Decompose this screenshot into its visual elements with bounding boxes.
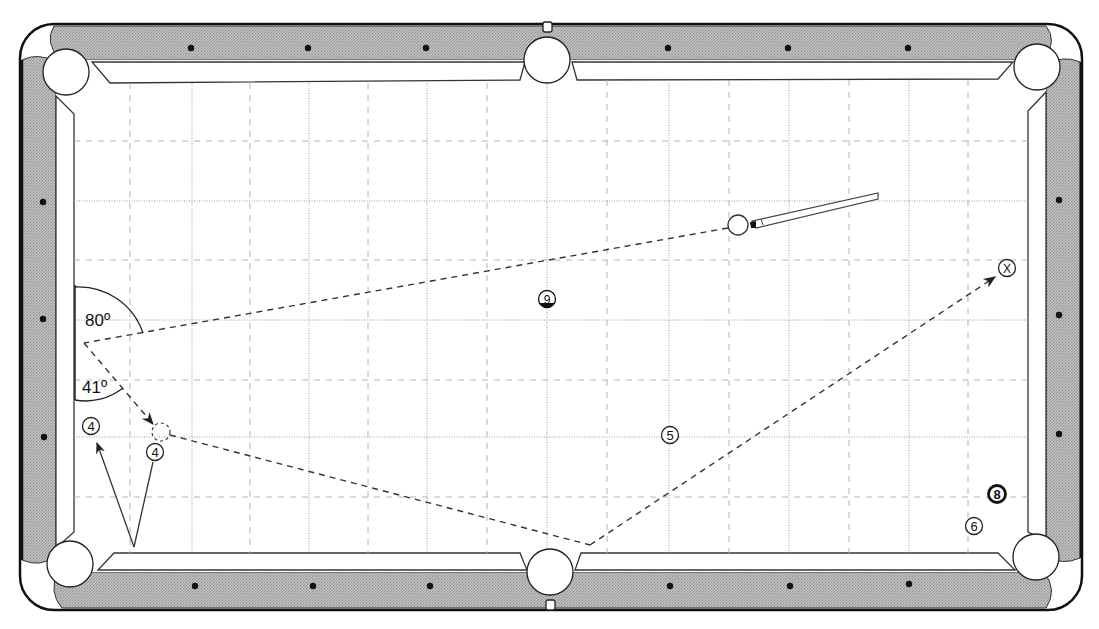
cushion-right	[1028, 92, 1046, 540]
diamond-marker	[1056, 197, 1062, 203]
diamond-marker	[40, 199, 46, 205]
diamond-marker	[427, 583, 433, 589]
diamond-marker	[192, 583, 198, 589]
ball-4a-label: 4	[87, 419, 94, 434]
left-rail	[22, 56, 56, 563]
ball-4b-label: 4	[151, 445, 158, 460]
diamond-marker	[906, 581, 912, 587]
ball-4b: 4	[147, 444, 164, 461]
diamond-marker	[785, 45, 791, 51]
ball-5: 5	[662, 427, 679, 444]
diamond-marker	[310, 583, 316, 589]
diamond-marker	[305, 45, 311, 51]
bottom-middle-pocket-tab	[546, 600, 555, 610]
angle-label-41: 41º	[82, 378, 107, 397]
target-x-marker: X	[999, 260, 1016, 277]
right-rail	[1046, 59, 1080, 562]
pocket-top-left	[43, 49, 89, 95]
diamond-marker	[1056, 431, 1062, 437]
ball-8: 8	[989, 486, 1006, 503]
cushion-left	[56, 96, 74, 548]
pocket-top-middle	[524, 37, 570, 83]
target-x-label: X	[1003, 262, 1011, 276]
ball-4a: 4	[83, 418, 100, 435]
pocket-top-right	[1014, 44, 1060, 90]
diamond-marker	[665, 45, 671, 51]
cushion-top-right	[572, 62, 1013, 80]
pool-table-diagram: 80º 41º 9 5 4	[0, 0, 1099, 629]
cushion-bottom-left	[98, 553, 527, 570]
ball-5-label: 5	[666, 428, 673, 443]
diamond-marker	[41, 434, 47, 440]
diamond-marker	[1056, 312, 1062, 318]
diamond-marker	[787, 583, 793, 589]
pocket-bottom-left	[47, 541, 93, 587]
cushion-top-left	[92, 62, 525, 83]
ball-9: 9	[539, 291, 556, 308]
ball-6-label: 6	[970, 519, 977, 534]
cushion-bottom-right	[575, 553, 1015, 570]
table-felt	[56, 60, 1046, 572]
angle-label-80: 80º	[85, 311, 110, 330]
diamond-marker	[188, 45, 194, 51]
diamond-marker	[40, 316, 46, 322]
diamond-marker	[423, 45, 429, 51]
top-middle-pocket-tab	[543, 22, 552, 32]
pocket-bottom-middle	[527, 549, 573, 595]
ball-9-label: 9	[544, 293, 551, 307]
pocket-bottom-right	[1013, 534, 1059, 580]
diamond-marker	[905, 45, 911, 51]
diamond-marker	[667, 583, 673, 589]
ball-8-label: 8	[993, 487, 1000, 502]
ball-6: 6	[966, 518, 983, 535]
cue-ball	[728, 215, 748, 235]
